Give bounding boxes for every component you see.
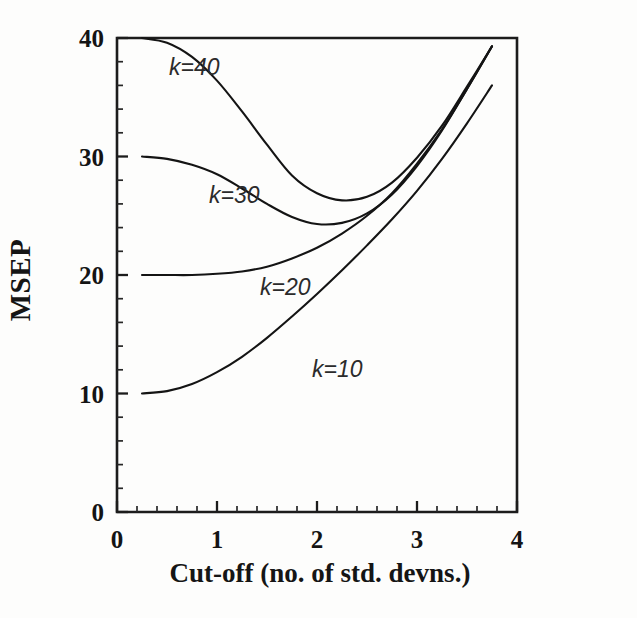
x-tick-label: 1 <box>211 526 224 553</box>
plot-canvas: 010203040 01234 k=40k=30k=20k=10 <box>0 0 637 618</box>
curve-label-k40: k=40 <box>169 54 220 80</box>
curve-label-k10: k=10 <box>312 356 363 382</box>
y-tick-labels: 010203040 <box>79 25 104 526</box>
y-tick-label: 30 <box>79 144 104 171</box>
curve-label-k20: k=20 <box>260 274 311 300</box>
y-tick-label: 20 <box>79 262 104 289</box>
x-tick-label: 4 <box>511 526 524 553</box>
x-tick-label: 3 <box>411 526 424 553</box>
curve-annotations: k=40k=30k=20k=10 <box>169 54 363 382</box>
y-tick-label: 0 <box>92 499 105 526</box>
y-tick-label: 10 <box>79 381 104 408</box>
x-tick-label: 0 <box>111 526 124 553</box>
x-tick-labels: 01234 <box>111 526 524 553</box>
y-tick-label: 40 <box>79 25 104 52</box>
chart-figure: MSEP Cut-off (no. of std. devns.) 010203… <box>0 0 637 618</box>
data-curves <box>142 38 492 394</box>
x-tick-label: 2 <box>311 526 324 553</box>
curve-label-k30: k=30 <box>209 182 260 208</box>
